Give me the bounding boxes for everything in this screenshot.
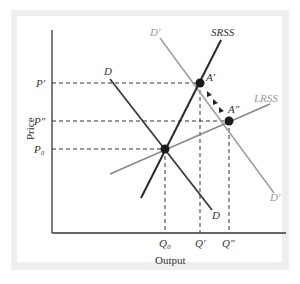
label-q-double-prime: Q″ <box>222 237 235 249</box>
adjustment-arrows <box>207 91 224 113</box>
lrss-curve <box>110 104 270 174</box>
point-a-double-prime <box>225 117 234 126</box>
point-a-prime <box>196 79 205 88</box>
srss-curve <box>141 40 221 198</box>
x-axis-title: Output <box>155 254 186 266</box>
label-lrss: LRSS <box>253 92 278 104</box>
label-a-prime: A′ <box>205 71 216 83</box>
label-q-prime: Q′ <box>195 237 206 249</box>
point-e0 <box>161 145 170 154</box>
label-q0: Q₀ <box>159 237 171 249</box>
label-p-prime: P′ <box>35 77 46 89</box>
label-p0: P₀ <box>33 143 45 155</box>
label-demand: D <box>103 65 112 77</box>
supply-demand-diagram: D D D′ D′ SRSS LRSS A′ A″ P′ P″ P₀ Q₀ Q′… <box>0 0 300 284</box>
label-a-double-prime: A″ <box>227 103 240 115</box>
label-demand-end: D <box>211 209 220 221</box>
label-demand-shifted-end: D′ <box>269 191 281 203</box>
label-srss: SRSS <box>211 26 235 38</box>
demand-shifted-curve <box>160 38 274 193</box>
demand-curve <box>110 79 212 210</box>
label-demand-shifted: D′ <box>149 26 161 38</box>
y-axis-title: Price <box>24 117 36 140</box>
